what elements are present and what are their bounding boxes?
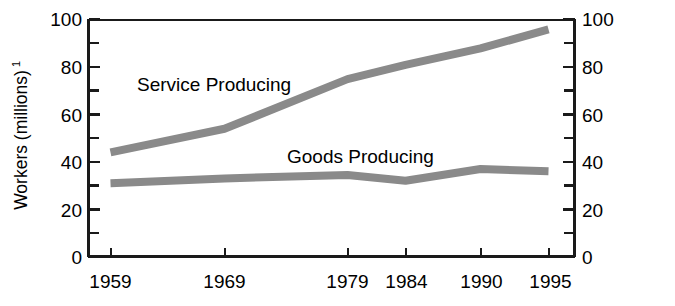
series-label-service-producing: Service Producing [137,74,291,95]
right-tick-label-40: 40 [582,152,603,173]
right-tick-label-100: 100 [582,9,614,30]
left-tick-label-20: 20 [61,200,82,221]
right-tick-label-20: 20 [582,200,603,221]
series-label-goods-producing: Goods Producing [287,146,434,167]
right-tick-label-0: 0 [582,247,593,268]
x-tick-label-1995: 1995 [529,271,571,292]
left-tick-label-0: 0 [71,247,82,268]
x-tick-label-1959: 1959 [89,271,131,292]
left-tick-label-60: 60 [61,105,82,126]
y-axis-title: Workers (millions) [11,70,31,210]
x-tick-label-1969: 1969 [203,271,245,292]
y-axis-title-superscript: 1 [10,61,22,67]
left-tick-label-40: 40 [61,152,82,173]
x-axis-labels: 1959 1969 1979 1984 1990 1995 [89,271,571,292]
left-tick-label-100: 100 [50,9,82,30]
right-tick-label-80: 80 [582,57,603,78]
x-tick-label-1984: 1984 [385,271,428,292]
line-chart: 100 80 60 40 20 0 100 80 60 40 20 [0,0,675,306]
y-axis-title-group: Workers (millions) 1 [10,61,31,210]
x-tick-label-1979: 1979 [326,271,368,292]
right-tick-label-60: 60 [582,105,603,126]
x-tick-label-1990: 1990 [460,271,502,292]
left-tick-label-80: 80 [61,57,82,78]
chart-container: 100 80 60 40 20 0 100 80 60 40 20 [0,0,675,306]
